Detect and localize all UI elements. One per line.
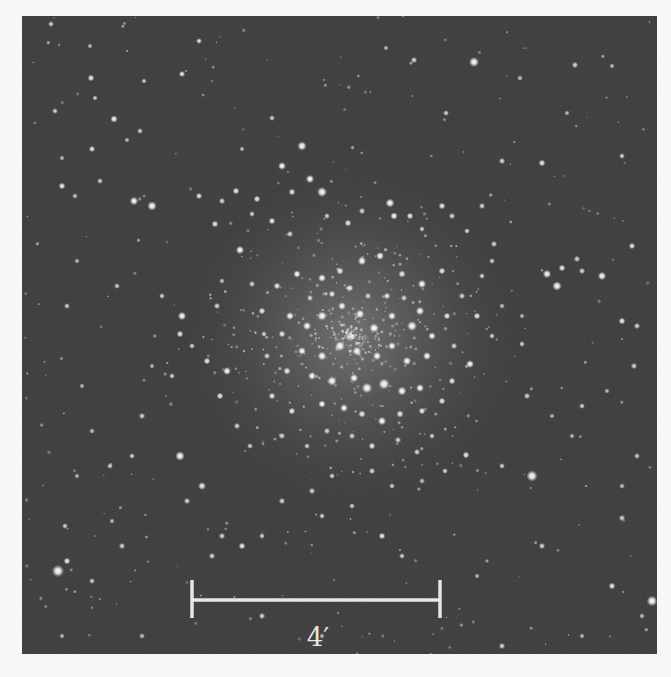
star <box>349 433 355 439</box>
star <box>335 341 345 351</box>
faint-star <box>380 361 383 364</box>
faint-star <box>290 287 292 289</box>
faint-star <box>277 135 279 137</box>
faint-star <box>393 335 395 337</box>
faint-star <box>396 342 400 346</box>
star <box>89 428 95 434</box>
faint-star <box>24 498 29 503</box>
faint-star <box>476 488 479 491</box>
star <box>519 341 525 347</box>
faint-star <box>311 394 313 396</box>
star <box>63 557 70 564</box>
star <box>474 573 479 578</box>
faint-star <box>509 163 511 165</box>
faint-star <box>648 20 651 23</box>
faint-star <box>334 357 336 359</box>
star <box>109 518 114 523</box>
faint-star <box>341 296 344 299</box>
star <box>249 211 255 217</box>
faint-star <box>133 271 137 275</box>
star <box>489 333 495 339</box>
star <box>355 309 364 318</box>
star <box>479 273 485 279</box>
faint-star <box>411 300 415 304</box>
star <box>419 478 425 484</box>
faint-star <box>366 340 369 343</box>
faint-star <box>529 387 533 391</box>
faint-star <box>33 121 36 124</box>
faint-star <box>611 258 614 261</box>
faint-star <box>419 446 424 451</box>
star <box>317 351 326 360</box>
star <box>317 311 327 321</box>
faint-star <box>377 343 380 346</box>
faint-star <box>348 349 353 354</box>
faint-star <box>222 323 227 328</box>
faint-star <box>509 220 513 224</box>
faint-star <box>107 295 109 297</box>
star <box>110 115 118 123</box>
faint-star <box>346 344 348 346</box>
faint-star <box>397 421 401 425</box>
faint-star <box>103 474 105 476</box>
star <box>179 71 185 77</box>
faint-star <box>279 354 283 358</box>
faint-star <box>365 530 368 533</box>
faint-star <box>348 312 351 315</box>
faint-star <box>431 283 433 285</box>
faint-star <box>357 367 361 371</box>
star <box>346 284 353 291</box>
faint-star <box>418 320 421 323</box>
star <box>349 503 355 509</box>
faint-star <box>553 175 556 178</box>
faint-star <box>69 568 73 572</box>
faint-star <box>428 384 432 388</box>
faint-star <box>297 355 299 357</box>
faint-star <box>597 299 601 303</box>
faint-star <box>438 378 442 382</box>
faint-star <box>440 626 444 630</box>
faint-star <box>292 338 294 340</box>
faint-star <box>295 453 298 456</box>
faint-star <box>57 43 60 46</box>
faint-star <box>641 127 645 131</box>
faint-star <box>284 234 287 237</box>
faint-star <box>360 151 364 155</box>
star <box>119 543 125 549</box>
faint-star <box>364 351 368 355</box>
faint-star <box>90 595 93 598</box>
faint-star <box>423 234 427 238</box>
faint-star <box>380 405 383 408</box>
faint-star <box>250 250 253 253</box>
faint-star <box>250 257 252 259</box>
faint-star <box>418 432 421 435</box>
faint-star <box>42 484 45 487</box>
faint-star <box>370 369 373 372</box>
faint-star <box>378 216 382 220</box>
faint-star <box>473 310 476 313</box>
faint-star <box>356 74 360 78</box>
faint-star <box>339 56 341 58</box>
faint-star <box>330 336 332 338</box>
faint-star <box>585 116 587 118</box>
star <box>608 582 615 589</box>
faint-star <box>337 333 339 335</box>
faint-star <box>134 569 137 572</box>
star <box>79 383 84 388</box>
faint-star <box>199 594 202 597</box>
star <box>175 451 185 461</box>
faint-star <box>354 326 359 331</box>
faint-star <box>430 154 434 158</box>
faint-star <box>130 473 132 475</box>
faint-star <box>356 320 361 325</box>
faint-star <box>359 394 363 398</box>
faint-star <box>578 435 582 439</box>
star <box>214 303 220 309</box>
faint-star <box>392 428 394 430</box>
faint-star <box>46 40 51 45</box>
star <box>609 63 614 68</box>
faint-star <box>352 530 356 534</box>
faint-star <box>246 229 250 233</box>
star <box>395 437 401 443</box>
star <box>338 302 346 310</box>
